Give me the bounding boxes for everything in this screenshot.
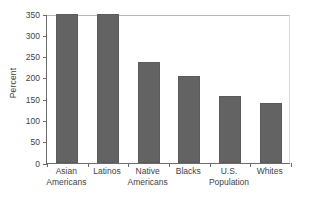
y-axis-tick — [43, 121, 47, 122]
y-axis-tick-label: 200 — [9, 74, 40, 82]
y-axis-tick-label: 350 — [9, 11, 40, 19]
x-axis-label-line2 — [249, 177, 290, 188]
x-axis-label-line1: Native — [127, 166, 168, 177]
y-axis-tick-label: 100 — [9, 117, 40, 125]
y-axis-tick-label: 250 — [9, 53, 40, 61]
bar — [260, 103, 282, 163]
x-axis-label: U.S.Population — [209, 166, 250, 188]
x-axis-label-line1: Whites — [249, 166, 290, 177]
y-axis-tick — [43, 36, 47, 37]
bar — [138, 62, 160, 163]
y-axis-tick — [43, 57, 47, 58]
x-axis-label: Blacks — [168, 166, 209, 188]
bar — [97, 14, 119, 163]
x-axis-label-line1: Latinos — [87, 166, 128, 177]
x-axis-label: Latinos — [87, 166, 128, 188]
x-axis-label-line2: Americans — [46, 177, 87, 188]
x-axis-labels: AsianAmericansLatinos NativeAmericansBla… — [46, 166, 290, 200]
x-axis-label-line2 — [168, 177, 209, 188]
y-axis-tick-label: 50 — [9, 138, 40, 146]
y-axis-tick — [43, 100, 47, 101]
x-axis-tick — [291, 163, 292, 167]
bar — [56, 14, 78, 163]
bar-chart: Percent 050100150200250300350 AsianAmeri… — [0, 0, 311, 200]
y-axis-title: Percent — [8, 53, 18, 113]
x-axis-label-line1: U.S. — [209, 166, 250, 177]
y-axis-tick — [43, 78, 47, 79]
x-axis-label-line1: Blacks — [168, 166, 209, 177]
x-axis-label: Whites — [249, 166, 290, 188]
x-axis-label: NativeAmericans — [127, 166, 168, 188]
y-axis-tick-label: 150 — [9, 96, 40, 104]
y-axis-tick — [43, 15, 47, 16]
bar — [178, 76, 200, 163]
x-axis-label-line2 — [87, 177, 128, 188]
x-axis-label-line2: Americans — [127, 177, 168, 188]
x-axis-label-line1: Asian — [46, 166, 87, 177]
y-axis-tick — [43, 142, 47, 143]
x-axis-label-line2: Population — [209, 177, 250, 188]
y-axis-tick-label: 300 — [9, 32, 40, 40]
plot-area: 050100150200250300350 — [46, 15, 290, 164]
y-axis-tick-label: 0 — [9, 160, 40, 168]
x-axis-label: AsianAmericans — [46, 166, 87, 188]
bar — [219, 96, 241, 163]
